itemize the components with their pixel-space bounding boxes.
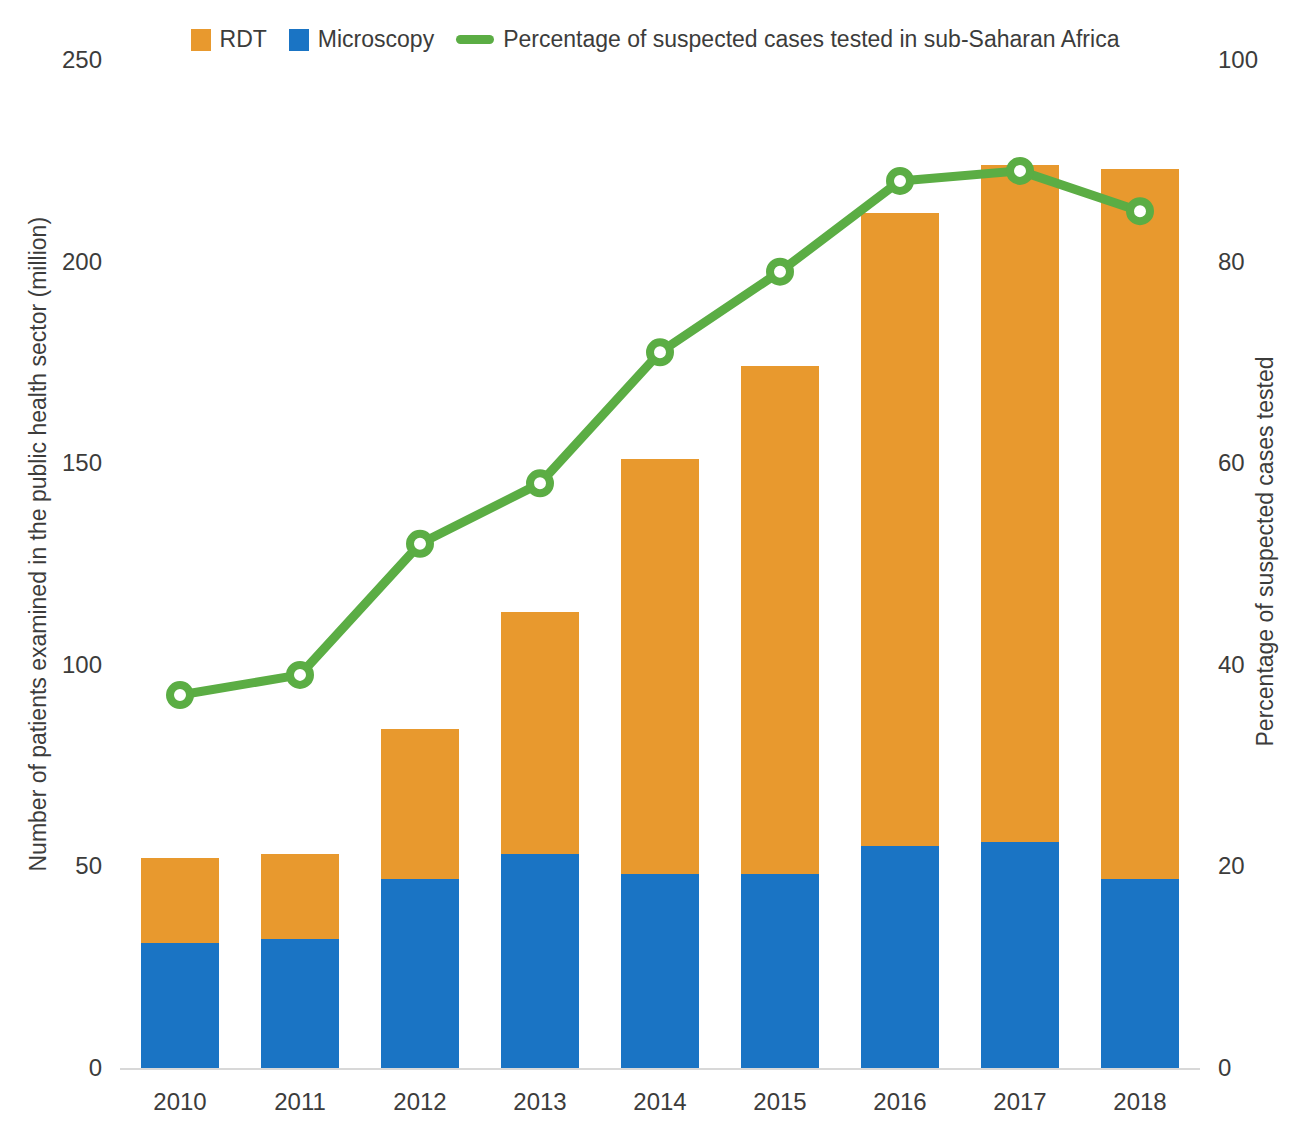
- y-axis-left-tick: 150: [62, 451, 102, 475]
- line-marker[interactable]: [170, 685, 190, 705]
- y-axis-right-tick: 80: [1218, 250, 1245, 274]
- y-axis-right-tick: 60: [1218, 451, 1245, 475]
- legend-label-percentage: Percentage of suspected cases tested in …: [503, 28, 1119, 51]
- x-axis-tick: 2017: [993, 1090, 1046, 1114]
- line-marker[interactable]: [1130, 201, 1150, 221]
- x-axis-tick: 2012: [393, 1090, 446, 1114]
- y-axis-right-tick: 0: [1218, 1056, 1231, 1080]
- x-axis-tick: 2011: [274, 1090, 326, 1114]
- y-axis-left-tick: 100: [62, 653, 102, 677]
- x-axis-tick: 2018: [1113, 1090, 1166, 1114]
- y-axis-left-tick: 250: [62, 48, 102, 72]
- x-axis-tick: 2013: [513, 1090, 566, 1114]
- line-marker[interactable]: [770, 262, 790, 282]
- line-marker[interactable]: [650, 342, 670, 362]
- line-marker[interactable]: [890, 171, 910, 191]
- y-axis-right-title: Percentage of suspected cases tested: [1254, 272, 1277, 832]
- line-marker[interactable]: [1010, 161, 1030, 181]
- plot-area: [120, 60, 1200, 1070]
- legend-label-rdt: RDT: [220, 28, 267, 51]
- x-axis-tick: 2010: [153, 1090, 206, 1114]
- line-path-percentage: [180, 171, 1140, 695]
- x-axis-tick: 2014: [633, 1090, 686, 1114]
- y-axis-right-tick: 40: [1218, 653, 1245, 677]
- legend-label-microscopy: Microscopy: [318, 28, 434, 51]
- x-axis-tick: 2015: [753, 1090, 806, 1114]
- legend-swatch-rdt-icon: [191, 29, 211, 51]
- chart-figure: RDT Microscopy Percentage of suspected c…: [0, 0, 1310, 1148]
- y-axis-left-tick: 200: [62, 250, 102, 274]
- y-axis-left-title: Number of patients examined in the publi…: [27, 232, 50, 872]
- x-axis-tick: 2016: [873, 1090, 926, 1114]
- y-axis-right-tick: 20: [1218, 854, 1245, 878]
- legend-item-rdt: RDT: [191, 28, 267, 51]
- legend-swatch-microscopy-icon: [289, 29, 309, 51]
- line-series-layer: [120, 60, 1200, 1070]
- line-marker[interactable]: [410, 534, 430, 554]
- y-axis-right-tick: 100: [1218, 48, 1258, 72]
- line-marker[interactable]: [290, 665, 310, 685]
- legend-item-percentage: Percentage of suspected cases tested in …: [456, 28, 1119, 51]
- legend-item-microscopy: Microscopy: [289, 28, 434, 51]
- legend-swatch-percentage-icon: [456, 35, 494, 44]
- chart-legend: RDT Microscopy Percentage of suspected c…: [0, 28, 1310, 51]
- y-axis-left-tick: 50: [75, 854, 102, 878]
- y-axis-left-tick: 0: [89, 1056, 102, 1080]
- line-marker[interactable]: [530, 473, 550, 493]
